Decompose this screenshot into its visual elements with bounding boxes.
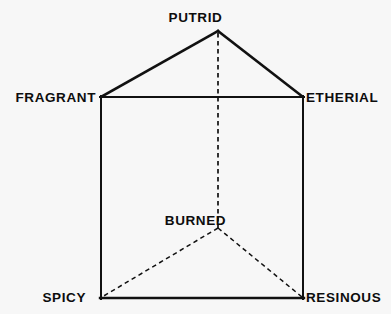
- vertex-label-resinous: RESINOUS: [306, 291, 381, 305]
- vertex-label-etherial: ETHERIAL: [306, 91, 378, 105]
- edge-putrid-etherial: [218, 31, 303, 97]
- vertex-label-putrid: PUTRID: [0, 11, 391, 25]
- odor-prism-diagram: PUTRID FRAGRANT ETHERIAL BURNED SPICY RE…: [0, 0, 391, 314]
- vertex-label-spicy: SPICY: [0, 291, 86, 305]
- edge-burned-resinous: [218, 228, 302, 297]
- edge-fragrant-putrid: [101, 31, 218, 97]
- prism-drawing: [0, 0, 391, 314]
- vertex-label-burned: BURNED: [0, 214, 391, 228]
- vertex-label-fragrant: FRAGRANT: [0, 91, 96, 105]
- edge-burned-spicy: [102, 228, 218, 297]
